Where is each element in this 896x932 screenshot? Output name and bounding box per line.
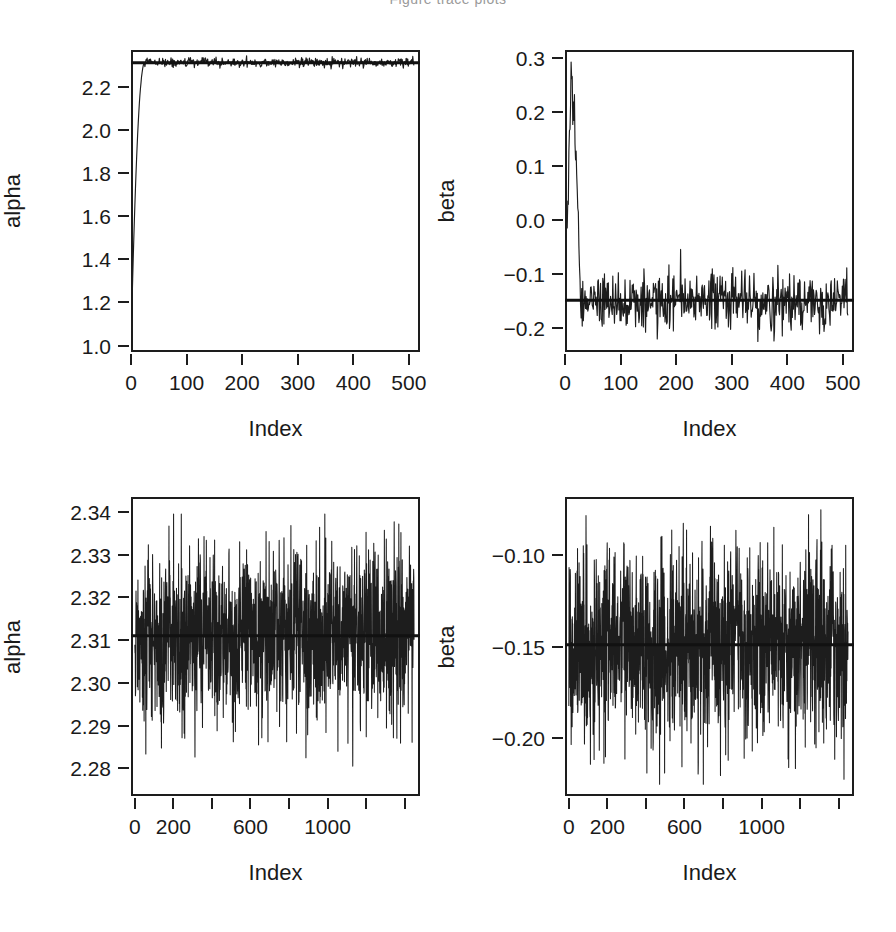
- alpha-posterior-trace: [131, 497, 420, 796]
- x-tick-label: 600: [667, 816, 702, 837]
- x-axis-title: Index: [683, 862, 737, 884]
- y-tick-mark: [552, 327, 563, 329]
- y-tick-label: 2.30: [36, 672, 111, 693]
- x-tick-mark: [786, 354, 788, 365]
- x-tick-label: 100: [169, 372, 204, 393]
- y-tick-label: 1.2: [36, 292, 111, 313]
- panel-beta-posterior: [565, 497, 854, 796]
- trace-line: [569, 510, 848, 784]
- y-tick-mark: [552, 57, 563, 59]
- x-tick-label: 0: [129, 816, 141, 837]
- trace-line: [135, 514, 414, 766]
- y-tick-label: −0.2: [470, 317, 545, 338]
- y-tick-label: −0.20: [470, 727, 545, 748]
- y-tick-mark: [118, 345, 129, 347]
- y-axis-title: beta: [436, 180, 458, 223]
- y-axis-title: alpha: [2, 620, 24, 674]
- figure-header-text: Figure trace plots: [389, 0, 506, 7]
- y-tick-label: 2.31: [36, 630, 111, 651]
- y-tick-label: 2.33: [36, 544, 111, 565]
- beta-posterior-trace: [565, 497, 854, 796]
- y-tick-mark: [552, 646, 563, 648]
- x-tick-mark: [838, 798, 840, 809]
- y-tick-mark: [552, 737, 563, 739]
- y-tick-mark: [552, 111, 563, 113]
- beta-burnin-trace: [565, 50, 854, 352]
- x-tick-label: 400: [770, 372, 805, 393]
- figure-header-strip: Figure trace plots: [0, 0, 896, 16]
- x-tick-mark: [408, 354, 410, 365]
- y-tick-label: 2.0: [36, 119, 111, 140]
- x-tick-mark: [288, 798, 290, 809]
- x-tick-mark: [564, 354, 566, 365]
- y-tick-mark: [118, 301, 129, 303]
- y-tick-mark: [118, 554, 129, 556]
- y-tick-label: 2.32: [36, 587, 111, 608]
- y-tick-mark: [118, 215, 129, 217]
- y-tick-mark: [118, 767, 129, 769]
- y-tick-mark: [552, 554, 563, 556]
- y-tick-label: 0.2: [470, 102, 545, 123]
- panel-alpha-posterior: [131, 497, 420, 796]
- y-tick-mark: [552, 165, 563, 167]
- y-tick-label: 1.4: [36, 249, 111, 270]
- x-tick-mark: [645, 798, 647, 809]
- x-tick-label: 600: [233, 816, 268, 837]
- y-tick-mark: [118, 639, 129, 641]
- x-tick-mark: [683, 798, 685, 809]
- y-tick-label: 2.29: [36, 715, 111, 736]
- trace-line: [131, 56, 414, 346]
- x-tick-mark: [352, 354, 354, 365]
- alpha-burnin-trace: [131, 50, 420, 352]
- y-tick-label: 0.0: [470, 209, 545, 230]
- x-tick-mark: [731, 354, 733, 365]
- x-axis-title: Index: [249, 862, 303, 884]
- y-tick-mark: [118, 258, 129, 260]
- y-tick-label: −0.10: [470, 545, 545, 566]
- y-tick-mark: [118, 129, 129, 131]
- y-tick-label: 0.3: [470, 48, 545, 69]
- x-tick-mark: [130, 354, 132, 365]
- y-tick-mark: [552, 273, 563, 275]
- x-tick-mark: [327, 798, 329, 809]
- y-tick-mark: [118, 682, 129, 684]
- x-tick-mark: [172, 798, 174, 809]
- x-tick-mark: [606, 798, 608, 809]
- y-tick-label: 2.28: [36, 758, 111, 779]
- x-tick-mark: [134, 798, 136, 809]
- x-tick-mark: [761, 798, 763, 809]
- x-tick-label: 200: [156, 816, 191, 837]
- y-axis-title: alpha: [2, 174, 24, 228]
- x-tick-label: 300: [714, 372, 749, 393]
- x-tick-mark: [842, 354, 844, 365]
- x-tick-label: 200: [659, 372, 694, 393]
- y-tick-mark: [118, 86, 129, 88]
- y-tick-label: −0.1: [470, 263, 545, 284]
- y-tick-label: 2.2: [36, 76, 111, 97]
- y-tick-mark: [118, 511, 129, 513]
- x-tick-mark: [675, 354, 677, 365]
- y-tick-label: 1.0: [36, 335, 111, 356]
- x-tick-label: 200: [225, 372, 260, 393]
- x-tick-mark: [297, 354, 299, 365]
- y-tick-label: 2.34: [36, 501, 111, 522]
- panel-alpha-burnin: [131, 50, 420, 352]
- y-axis-title: beta: [436, 625, 458, 668]
- x-tick-label: 200: [590, 816, 625, 837]
- x-axis-title: Index: [683, 418, 737, 440]
- x-tick-label: 300: [280, 372, 315, 393]
- x-tick-mark: [186, 354, 188, 365]
- x-axis-title: Index: [249, 418, 303, 440]
- y-tick-label: 0.1: [470, 155, 545, 176]
- y-tick-mark: [552, 219, 563, 221]
- x-tick-mark: [211, 798, 213, 809]
- y-tick-mark: [118, 596, 129, 598]
- y-tick-label: −0.15: [470, 636, 545, 657]
- x-tick-mark: [241, 354, 243, 365]
- y-tick-label: 1.6: [36, 206, 111, 227]
- x-tick-mark: [722, 798, 724, 809]
- y-tick-label: 1.8: [36, 162, 111, 183]
- x-tick-mark: [404, 798, 406, 809]
- x-tick-mark: [249, 798, 251, 809]
- x-tick-label: 400: [336, 372, 371, 393]
